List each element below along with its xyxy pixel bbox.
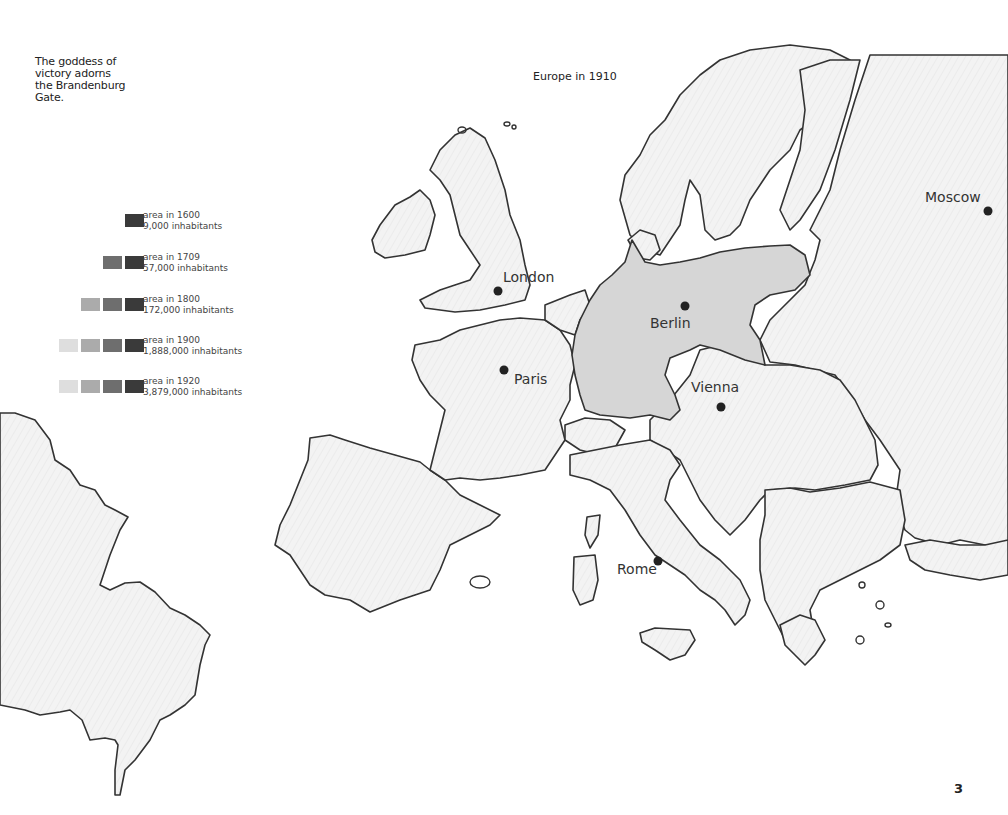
legend-population: 9,000 inhabitants (143, 221, 222, 232)
swatch-1800 (81, 298, 100, 311)
europe-map (0, 0, 1008, 815)
legend-year: area in 1600 (143, 210, 222, 221)
swatch-1600 (125, 298, 144, 311)
legend-swatches (81, 298, 144, 311)
legend-item-1600: area in 1600 9,000 inhabitants (40, 210, 260, 234)
legend-population: 1,888,000 inhabitants (143, 346, 242, 357)
legend-item-1900: area in 1900 1,888,000 inhabitants (40, 335, 260, 359)
sicily (640, 628, 695, 660)
city-label-london: London (503, 269, 554, 285)
southwest-landmass (0, 413, 210, 795)
legend-swatches (59, 339, 144, 352)
city-label-vienna: Vienna (691, 379, 739, 395)
city-label-paris: Paris (514, 371, 547, 387)
map-title: Europe in 1910 (533, 70, 617, 83)
vienna-dot (717, 403, 726, 412)
legend-swatches (59, 380, 144, 393)
swatch-1600 (125, 380, 144, 393)
sardinia (573, 555, 598, 605)
swatch-1900 (59, 380, 78, 393)
legend-year: area in 1800 (143, 294, 234, 305)
legend-year: area in 1900 (143, 335, 242, 346)
ireland (372, 190, 435, 258)
swatch-1709 (103, 256, 122, 269)
legend-population: 3,879,000 inhabitants (143, 387, 242, 398)
page-number: 3 (954, 781, 963, 796)
swatch-1709 (103, 339, 122, 352)
legend-item-1920: area in 1920 3,879,000 inhabitants (40, 376, 260, 400)
france (412, 318, 575, 480)
city-label-berlin: Berlin (650, 315, 691, 331)
legend-item-1800: area in 1800 172,000 inhabitants (40, 294, 260, 318)
swatch-1900 (59, 339, 78, 352)
paris-dot (500, 366, 509, 375)
legend-year: area in 1920 (143, 376, 242, 387)
legend-population: 57,000 inhabitants (143, 263, 228, 274)
legend-item-1709: area in 1709 57,000 inhabitants (40, 252, 260, 276)
turkey-coast (905, 540, 1008, 580)
legend-swatches (103, 256, 144, 269)
city-label-rome: Rome (617, 561, 657, 577)
berlin-dot (681, 302, 690, 311)
moscow-dot (984, 207, 993, 216)
legend-year: area in 1709 (143, 252, 228, 263)
swatch-1600 (125, 214, 144, 227)
swatch-1709 (103, 298, 122, 311)
swatch-1600 (125, 256, 144, 269)
city-label-moscow: Moscow (925, 189, 981, 205)
greece (780, 615, 825, 665)
swatch-1800 (81, 339, 100, 352)
london-dot (494, 287, 503, 296)
swatch-1600 (125, 339, 144, 352)
swatch-1800 (81, 380, 100, 393)
corsica (585, 515, 600, 548)
swatch-1709 (103, 380, 122, 393)
legend-swatches (125, 214, 144, 227)
legend-population: 172,000 inhabitants (143, 305, 234, 316)
